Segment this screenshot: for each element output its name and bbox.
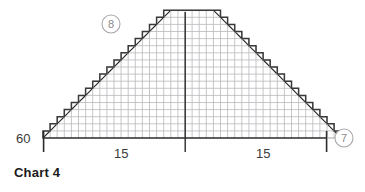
chart-caption: Chart 4 <box>14 165 60 180</box>
chart-figure: 60 15 15 8 7 Chart 4 <box>0 0 365 192</box>
marker-7: 7 <box>327 129 353 147</box>
marker-7-label: 7 <box>341 132 347 144</box>
marker-8-label: 8 <box>108 18 114 30</box>
marker-8: 8 <box>102 15 120 33</box>
chart-canvas: 60 15 15 8 7 <box>0 0 365 192</box>
chart-grid <box>43 10 341 138</box>
axis-label-left: 60 <box>16 131 30 146</box>
axis-label-bottom-right: 15 <box>256 146 270 161</box>
axis-label-bottom-left: 15 <box>114 146 128 161</box>
